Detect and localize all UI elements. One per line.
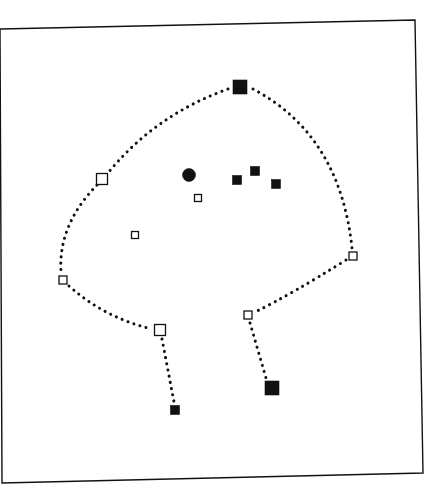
open-square-node-icon <box>97 174 108 185</box>
diagram-canvas <box>0 0 445 498</box>
open-square-node-icon <box>155 325 166 336</box>
open-square-node-icon <box>195 195 202 202</box>
open-square-node-icon <box>59 276 67 284</box>
frame-border <box>0 20 423 483</box>
filled-square-node-icon <box>272 180 281 189</box>
open-square-node-icon <box>349 252 357 260</box>
filled-square-node-icon <box>233 80 247 94</box>
diagram-frame <box>0 20 423 483</box>
network-diagram <box>0 0 445 498</box>
filled-square-node-icon <box>233 176 242 185</box>
filled-square-node-icon <box>171 406 180 415</box>
open-square-node-icon <box>244 311 252 319</box>
filled-square-node-icon <box>265 381 279 395</box>
open-square-node-icon <box>132 232 139 239</box>
filled-square-node-icon <box>251 167 260 176</box>
filled-circle-node-icon <box>183 169 196 182</box>
